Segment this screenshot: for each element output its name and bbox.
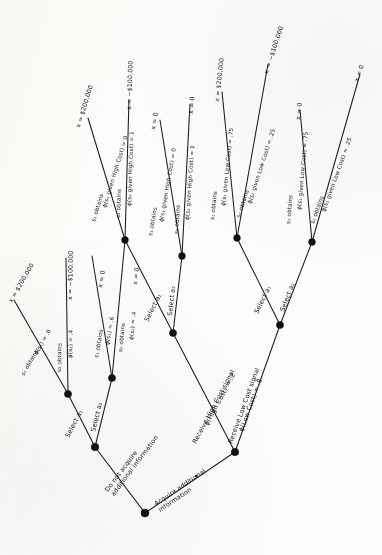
label-noinfo-a1-s1-payoff: x = $200,000 (7, 262, 35, 304)
label-noinfo-a2-s2-payoff: x = 0 (131, 267, 140, 285)
edge-low-a2-s2 (312, 74, 360, 242)
noinfo-a1-chance-node[interactable] (64, 390, 71, 397)
high-a2-chance-node[interactable] (179, 253, 186, 260)
edge-noinfo-a2-s2 (112, 240, 125, 378)
label-low-a2-s2-payoff: x = 0 (352, 64, 365, 83)
root-decision-node[interactable] (141, 509, 149, 517)
label-noinfo-a2-s1-prob: ϕ(s₁) = .6 (104, 316, 116, 345)
label-low-a2-s2-prob: ϕ(s₂ given Low Cost) = .25 (320, 136, 354, 212)
label-low-a2-s1-payoff: x = 0 (294, 102, 302, 120)
label-low-a1-s1-state: s₁ obtains (209, 191, 218, 221)
label-low-select-a1: Select a₁ (253, 284, 273, 315)
signal-chance-node[interactable] (231, 448, 239, 456)
label-noinfo-a2-s1-payoff: x = 0 (96, 270, 106, 288)
label-noinfo-a1-s1-prob: ϕ(s₁) = .6 (33, 328, 53, 356)
label-noinfo-a2-s1-state: s₁ obtains (93, 329, 104, 359)
label-high-a1-s2-prob: ϕ(s₂ given High Cost) = 1 (126, 131, 136, 206)
high-a1-chance-node[interactable] (122, 237, 129, 244)
label-noinfo-a1-s2-payoff: x = −$100,000 (66, 250, 74, 300)
high-cost-decision-node[interactable] (169, 329, 176, 336)
label-low-select-a2: Select a₂ (278, 282, 296, 313)
label-noinfo-select-a1: Select a₁ (64, 408, 85, 439)
label-do-not-acquire: Do not acquire additional information (103, 424, 164, 498)
label-high-a2-s1-state: s₁ obtains (147, 207, 158, 237)
label-acquire: Acquire additional information (153, 461, 221, 514)
label-low-a1-s2-prob: ϕ(s₂ given Low Cost) = .25 (246, 128, 277, 205)
no-info-decision-node[interactable] (91, 443, 99, 451)
label-high-a1-s2-payoff: x = −$100,000 (125, 60, 134, 110)
label-high-a2-s2-payoff: x = 0 (187, 96, 195, 114)
label-high-a1-s1-payoff: x = $200,000 (74, 84, 94, 128)
label-do-not-acquire-line2: additional information (109, 434, 160, 498)
label-acquire-line1: Acquire additional (153, 467, 208, 508)
label-low-a2-s1-state: s₁ obtains (285, 195, 294, 224)
figure-canvas: Do not acquire additional information Ac… (0, 0, 382, 555)
noinfo-a2-chance-node[interactable] (108, 374, 115, 381)
label-high-a1-s2-state: s₂ obtains (115, 189, 122, 218)
low-cost-decision-node[interactable] (276, 321, 283, 328)
label-noinfo-a2-s2-state: s₂ obtains (117, 323, 126, 353)
label-high-a2-s2-state: s₂ obtains (173, 205, 181, 234)
label-high-a2-s2-prob: ϕ(s₂ given High Cost) = 1 (184, 145, 196, 220)
label-high-a2-s1-payoff: x = 0 (149, 112, 159, 130)
label-noinfo-a1-s2-prob: ϕ(s₂) = .4 (67, 329, 74, 358)
low-a2-chance-node[interactable] (309, 239, 316, 246)
low-a1-chance-node[interactable] (234, 235, 241, 242)
decision-tree-svg: Do not acquire additional information Ac… (0, 0, 382, 555)
label-low-a1-s2-payoff: x = −$100,000 (262, 25, 284, 74)
label-noinfo-a1-s2-state: s₂ obtains (56, 343, 63, 372)
label-noinfo-a2-s2-prob: ϕ(s₂) = .4 (128, 311, 138, 340)
